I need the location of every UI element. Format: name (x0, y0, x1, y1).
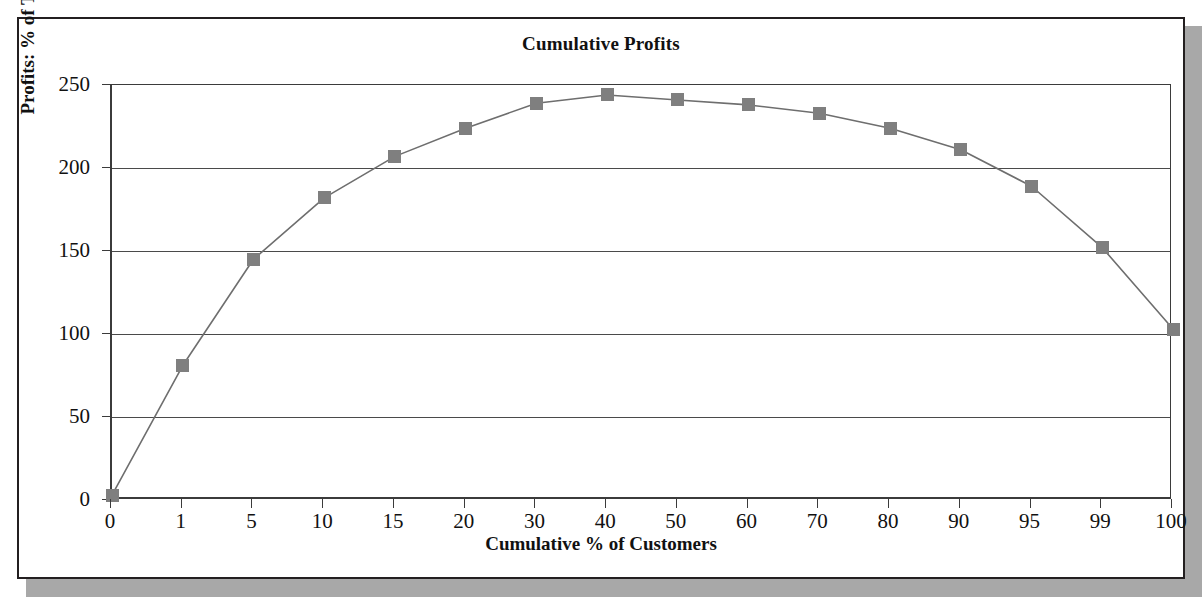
series-line (112, 85, 1173, 500)
x-axis-tick (817, 499, 818, 508)
y-axis-title: Profits: % of Total (17, 0, 39, 169)
data-point-marker (530, 97, 543, 110)
x-axis-tick-label: 15 (363, 511, 423, 532)
y-axis-tick (102, 416, 110, 417)
x-axis-tick (605, 499, 606, 508)
data-point-marker (318, 191, 331, 204)
data-point-marker (1096, 241, 1109, 254)
y-axis-tick-label: 50 (38, 406, 90, 427)
data-point-marker (601, 88, 614, 101)
figure-root: Cumulative Profits Profits: % of Total C… (0, 0, 1203, 598)
data-point-marker (954, 143, 967, 156)
x-axis-tick (747, 499, 748, 508)
x-axis-tick (1100, 499, 1101, 508)
y-axis-tick-label: 150 (38, 240, 90, 261)
x-axis-tick-label: 5 (221, 511, 281, 532)
data-point-marker (176, 359, 189, 372)
data-point-marker (106, 489, 119, 502)
data-point-marker (247, 253, 260, 266)
x-axis-tick-label: 50 (646, 511, 706, 532)
x-axis-tick (322, 499, 323, 508)
x-axis-title: Cumulative % of Customers (19, 533, 1183, 555)
data-point-marker (884, 122, 897, 135)
y-axis-tick (102, 84, 110, 85)
x-axis-tick-label: 1 (151, 511, 211, 532)
y-axis-tick-label: 0 (38, 489, 90, 510)
x-axis-tick-label: 95 (1000, 511, 1060, 532)
x-axis-tick-label: 0 (80, 511, 140, 532)
x-axis-tick-label: 80 (858, 511, 918, 532)
data-point-marker (742, 98, 755, 111)
data-point-marker (813, 107, 826, 120)
data-point-marker (671, 93, 684, 106)
y-axis-tick (102, 333, 110, 334)
x-axis-tick (464, 499, 465, 508)
x-axis-tick (676, 499, 677, 508)
x-axis-tick-label: 90 (929, 511, 989, 532)
x-axis-tick-label: 30 (504, 511, 564, 532)
data-point-marker (459, 122, 472, 135)
x-axis-tick-label: 99 (1070, 511, 1130, 532)
x-axis-tick (1030, 499, 1031, 508)
x-axis-tick (534, 499, 535, 508)
plot-area (110, 84, 1171, 499)
x-axis-tick-label: 40 (575, 511, 635, 532)
x-axis-tick (959, 499, 960, 508)
data-point-marker (1025, 180, 1038, 193)
x-axis-tick-label: 20 (434, 511, 494, 532)
x-axis-tick-label: 100 (1141, 511, 1201, 532)
x-axis-tick-label: 70 (787, 511, 847, 532)
chart-title: Cumulative Profits (19, 33, 1183, 55)
x-axis-tick (181, 499, 182, 508)
y-axis-tick (102, 167, 110, 168)
y-axis-tick (102, 250, 110, 251)
x-axis-tick (1171, 499, 1172, 508)
data-point-marker (388, 150, 401, 163)
x-axis-tick (393, 499, 394, 508)
y-axis-tick-label: 200 (38, 157, 90, 178)
data-point-marker (1167, 323, 1180, 336)
x-axis-tick (251, 499, 252, 508)
x-axis-tick (110, 499, 111, 508)
x-axis-tick-label: 10 (292, 511, 352, 532)
y-axis-tick-label: 250 (38, 74, 90, 95)
x-axis-tick (888, 499, 889, 508)
x-axis-tick-label: 60 (717, 511, 777, 532)
y-axis-tick-label: 100 (38, 323, 90, 344)
figure-frame: Cumulative Profits Profits: % of Total C… (17, 17, 1185, 579)
